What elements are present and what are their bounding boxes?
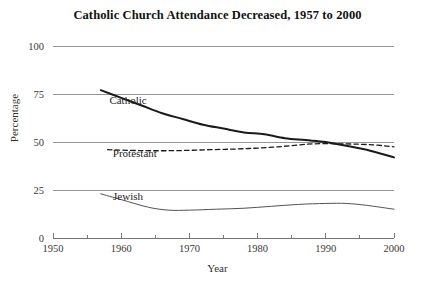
x-tick-label: 1960 (111, 243, 132, 254)
x-tick-label: 1950 (43, 243, 64, 254)
series-label-catholic: Catholic (109, 94, 146, 106)
x-tick-label: 1970 (179, 243, 200, 254)
x-tick-label: 1990 (315, 243, 336, 254)
y-tick-label: 100 (28, 41, 44, 52)
series-label-protestant: Protestant (113, 147, 157, 159)
x-axis (53, 233, 394, 238)
series-line-jewish (101, 194, 394, 211)
x-tick-label: 2000 (384, 243, 405, 254)
x-tick-label: 1980 (247, 243, 268, 254)
y-tick-label: 75 (34, 89, 45, 100)
chart-figure: Catholic Church Attendance Decreased, 19… (0, 0, 435, 292)
y-tick-label: 25 (34, 185, 45, 196)
series-label-jewish: Jewish (113, 190, 143, 202)
y-tick-label: 0 (39, 233, 44, 244)
x-tick-labels: 195019601970198019902000 (43, 243, 405, 254)
series-labels: CatholicProtestantJewish (109, 94, 156, 202)
plot-area: 0255075100 195019601970198019902000 Cath… (0, 0, 435, 292)
y-tick-labels: 0255075100 (28, 41, 44, 244)
y-tick-label: 50 (34, 137, 45, 148)
